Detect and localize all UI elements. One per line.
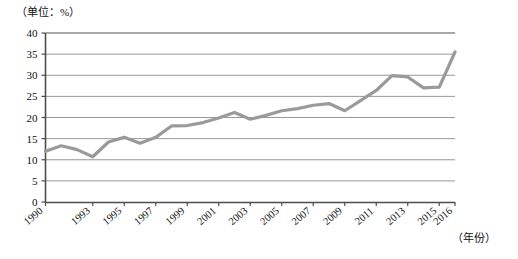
x-axis-tick-label: 2005: [258, 205, 281, 227]
x-axis-tick-label: 2003: [226, 205, 249, 227]
y-axis-tick-label: 30: [27, 69, 39, 81]
x-axis-tick-label: 1993: [69, 205, 92, 227]
y-axis-tick-label: 40: [27, 27, 39, 39]
x-axis-tick-label: 1997: [132, 205, 155, 227]
x-axis-tick-label: 2013: [384, 205, 407, 227]
x-axis-title: （年份）: [452, 232, 496, 244]
chart-figure: （单位：%） 0510152025303540 1990199319951997…: [0, 0, 518, 259]
y-axis-tick-label: 5: [32, 175, 38, 187]
x-axis-tick-label: 1995: [100, 205, 123, 227]
x-axis-tick-label: 2007: [289, 205, 312, 227]
y-axis-tick-label: 15: [27, 133, 39, 145]
y-axis-tick-label: 10: [27, 154, 39, 166]
x-axis-tick-label: 2011: [353, 205, 376, 227]
x-axis-tick-label: 2016: [431, 205, 454, 227]
line-chart-svg: 0510152025303540 19901993199519971999200…: [0, 0, 518, 259]
y-axis-ticks-group: 0510152025303540: [27, 27, 46, 208]
gridlines-group: [46, 33, 456, 181]
y-axis-tick-label: 25: [27, 90, 39, 102]
y-axis-tick-label: 20: [27, 112, 39, 124]
x-axis-tick-label: 2001: [195, 205, 218, 227]
x-axis-tick-label: 1999: [163, 205, 186, 227]
x-axis-ticks-group: 1990199319951997199920012003200520072009…: [22, 202, 455, 227]
data-series-line: [46, 52, 456, 157]
x-axis-tick-label: 1990: [22, 205, 45, 227]
x-axis-tick-label: 2009: [321, 205, 344, 227]
y-axis-tick-label: 35: [27, 48, 39, 60]
